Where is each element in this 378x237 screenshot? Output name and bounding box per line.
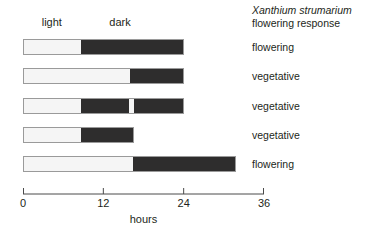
light-segment — [23, 157, 133, 171]
light-segment — [23, 128, 81, 142]
response-label: vegetative — [252, 70, 300, 82]
light-segment — [23, 69, 130, 83]
x-axis-title: hours — [130, 213, 158, 225]
treatment-bar — [23, 127, 134, 143]
response-label: vegetative — [252, 100, 300, 112]
dark-segment — [134, 99, 184, 113]
dark-segment — [130, 69, 184, 83]
treatment-bar — [23, 98, 184, 114]
dark-segment — [133, 157, 236, 171]
treatment-bar — [23, 156, 236, 172]
response-label: flowering — [252, 41, 294, 53]
light-segment — [23, 99, 81, 113]
flowering-response-chart: light dark Xanthium strumarium flowering… — [0, 0, 378, 237]
dark-segment — [81, 128, 135, 142]
chart-title-subtitle: flowering response — [252, 17, 352, 30]
response-label: flowering — [252, 158, 294, 170]
light-segment — [23, 40, 81, 54]
response-label: vegetative — [252, 129, 300, 141]
treatment-bar — [23, 39, 184, 55]
chart-title-species: Xanthium strumarium — [252, 4, 352, 17]
x-axis-tick-label: 0 — [20, 197, 26, 209]
column-header-light: light — [42, 16, 62, 28]
dark-segment — [81, 40, 184, 54]
x-axis-tick-label: 24 — [178, 197, 190, 209]
column-header-dark: dark — [109, 16, 130, 28]
treatment-bar — [23, 68, 184, 84]
chart-title: Xanthium strumarium flowering response — [252, 4, 352, 30]
dark-segment — [81, 99, 129, 113]
x-axis-tick-label: 12 — [97, 197, 109, 209]
x-axis-tick-label: 36 — [258, 197, 270, 209]
